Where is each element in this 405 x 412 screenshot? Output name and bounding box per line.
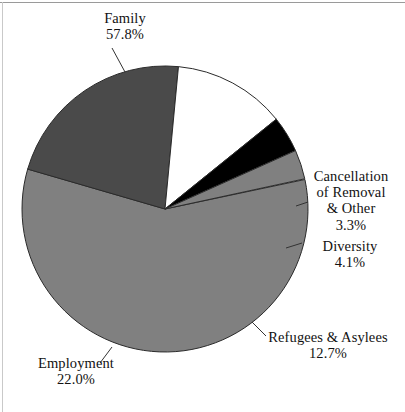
slice-label-family-name: Family	[70, 10, 180, 26]
slice-label-cancellation: Cancellation of Removal & Other 3.3%	[299, 168, 403, 233]
slice-label-cancellation-value: 3.3%	[299, 217, 403, 233]
slice-label-family: Family 57.8%	[70, 10, 180, 42]
pie-chart-figure: Family 57.8% Cancellation of Removal & O…	[0, 0, 405, 412]
slice-label-refugees-name: Refugees & Asylees	[253, 329, 403, 345]
slice-label-employment: Employment 22.0%	[14, 355, 138, 387]
leader-line-family	[112, 48, 125, 72]
slice-label-diversity-value: 4.1%	[300, 254, 400, 270]
slice-label-diversity-name: Diversity	[300, 238, 400, 254]
slice-label-diversity: Diversity 4.1%	[300, 238, 400, 270]
slice-label-refugees-value: 12.7%	[253, 345, 403, 361]
slice-label-refugees: Refugees & Asylees 12.7%	[253, 329, 403, 361]
pie-slice-group	[22, 66, 308, 352]
slice-label-employment-value: 22.0%	[14, 371, 138, 387]
slice-label-family-value: 57.8%	[70, 26, 180, 42]
slice-label-cancellation-line2: of Removal	[299, 184, 403, 200]
slice-label-employment-name: Employment	[14, 355, 138, 371]
slice-label-cancellation-line1: Cancellation	[299, 168, 403, 184]
slice-label-cancellation-line3: & Other	[299, 200, 403, 216]
